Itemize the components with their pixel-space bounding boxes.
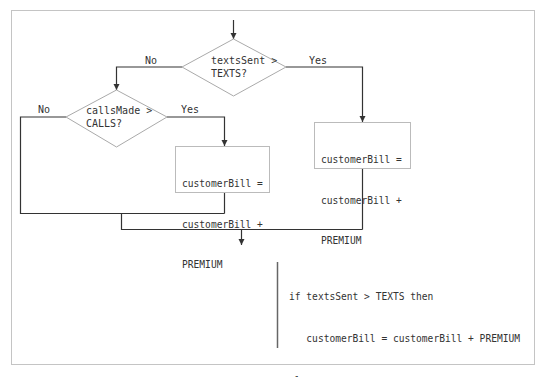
- process-inner-line3: PREMIUM: [182, 258, 263, 272]
- process-inner-line1: customerBill =: [182, 177, 263, 191]
- process-outer-line1: customerBill =: [321, 153, 402, 167]
- decision-texts-line2: TEXTS?: [211, 67, 247, 80]
- decision-calls-line1: callsMade >: [86, 104, 152, 117]
- pseudocode-block: if textsSent > TEXTS then customerBill =…: [289, 262, 537, 377]
- decision-calls-no-label: No: [38, 103, 50, 116]
- process-inner-line2: customerBill +: [182, 218, 263, 232]
- pseudocode-line: if textsSent > TEXTS then: [289, 290, 537, 304]
- process-outer-line2: customerBill +: [321, 194, 402, 208]
- pseudocode-line: customerBill = customerBill + PREMIUM: [289, 332, 537, 346]
- process-outer-text: customerBill = customerBill + PREMIUM: [321, 126, 402, 275]
- decision-texts-no-label: No: [145, 54, 157, 67]
- decision-calls-yes-label: Yes: [181, 103, 199, 116]
- process-inner-text: customerBill = customerBill + PREMIUM: [182, 150, 263, 299]
- decision-texts-yes-label: Yes: [309, 54, 327, 67]
- flowchart-figure: textsSent > TEXTS? No Yes callsMade > CA…: [0, 0, 545, 377]
- decision-calls-line2: CALLS?: [86, 117, 122, 130]
- decision-texts-line1: textsSent >: [211, 54, 277, 67]
- process-outer-line3: PREMIUM: [321, 234, 402, 248]
